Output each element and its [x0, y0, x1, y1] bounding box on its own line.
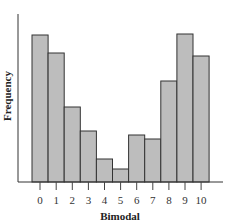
- x-tick-label: 10: [196, 194, 208, 206]
- x-tick-label: 5: [118, 194, 124, 206]
- bar-3: [80, 131, 96, 182]
- y-axis-label: Frequency: [1, 61, 13, 131]
- bar-4: [96, 159, 112, 182]
- x-tick-label: 8: [166, 194, 172, 206]
- histogram-chart: 012345678910 Frequency Bimodal: [0, 0, 225, 222]
- x-tick-label: 0: [37, 194, 43, 206]
- bar-5: [113, 169, 129, 182]
- bar-1: [48, 53, 64, 182]
- x-axis-label: Bimodal: [0, 210, 225, 222]
- x-tick-label: 9: [182, 194, 188, 206]
- x-tick-label: 1: [53, 194, 59, 206]
- bar-7: [145, 139, 161, 182]
- x-tick-label: 4: [102, 194, 108, 206]
- bar-9: [177, 34, 193, 182]
- bar-6: [129, 135, 145, 182]
- bar-2: [64, 107, 80, 182]
- bar-0: [32, 35, 48, 182]
- bar-8: [161, 81, 177, 182]
- x-tick-label: 3: [86, 194, 92, 206]
- x-tick-label: 2: [70, 194, 76, 206]
- x-tick-label: 7: [150, 194, 156, 206]
- x-tick-label: 6: [134, 194, 140, 206]
- chart-canvas: 012345678910: [0, 0, 225, 222]
- bar-10: [193, 56, 209, 182]
